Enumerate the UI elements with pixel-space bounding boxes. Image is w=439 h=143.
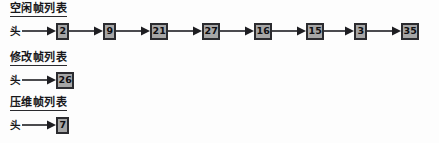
linked-list-diagram: 空闲帧列表 头 2 9 — [0, 0, 439, 143]
list-node: 15 — [306, 23, 324, 40]
arrow-icon — [22, 119, 56, 131]
list-node: 35 — [401, 23, 419, 40]
list-node: 9 — [103, 23, 116, 40]
arrow-icon — [168, 25, 202, 37]
list-node: 7 — [56, 117, 69, 134]
arrow-icon — [220, 25, 254, 37]
list-title-free-frame-list: 空闲帧列表 — [10, 2, 67, 17]
list-node: 2 — [56, 23, 69, 40]
list-node: 27 — [202, 23, 220, 40]
chain-compressed-frame-list: 头 7 — [10, 114, 69, 136]
list-node: 16 — [254, 23, 272, 40]
list-node: 26 — [56, 72, 74, 89]
arrow-icon — [69, 25, 103, 37]
arrow-icon — [22, 74, 56, 86]
head-label: 头 — [10, 74, 20, 87]
head-label: 头 — [10, 119, 20, 132]
list-node: 3 — [354, 23, 367, 40]
chain-modified-frame-list: 头 26 — [10, 69, 74, 91]
list-title-modified-frame-list: 修改帧列表 — [10, 51, 67, 66]
list-title-compressed-frame-list: 压维帧列表 — [10, 96, 67, 111]
arrow-icon — [324, 25, 354, 37]
list-node: 21 — [150, 23, 168, 40]
arrow-icon — [272, 25, 306, 37]
chain-free-frame-list: 头 2 9 21 — [10, 20, 419, 42]
arrow-icon — [116, 25, 150, 37]
arrow-icon — [367, 25, 401, 37]
head-label: 头 — [10, 25, 20, 38]
arrow-icon — [22, 25, 56, 37]
